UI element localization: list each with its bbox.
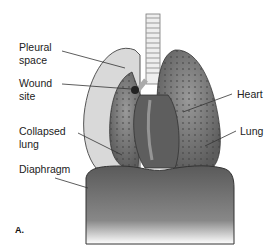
diaphragm-leader — [55, 178, 88, 188]
label-diaphragm: Diaphragm — [19, 163, 70, 176]
heart — [134, 95, 179, 168]
label-collapsed-lung-line2: lung — [19, 138, 66, 151]
pneumothorax-diagram — [0, 0, 280, 246]
label-wound-site: Wound site — [19, 77, 52, 102]
label-wound-site-line2: site — [19, 90, 52, 103]
panel-label: A. — [15, 225, 24, 235]
wound-site-marker — [131, 86, 139, 94]
diaphragm — [86, 166, 234, 244]
label-collapsed-lung-line1: Collapsed — [19, 125, 66, 138]
label-pleural-space-line1: Pleural — [19, 41, 52, 54]
label-collapsed-lung: Collapsed lung — [19, 125, 66, 150]
label-lung: Lung — [240, 125, 263, 138]
label-heart: Heart — [237, 88, 263, 101]
label-wound-site-line1: Wound — [19, 77, 52, 90]
label-pleural-space-line2: space — [19, 54, 52, 67]
label-pleural-space: Pleural space — [19, 41, 52, 66]
